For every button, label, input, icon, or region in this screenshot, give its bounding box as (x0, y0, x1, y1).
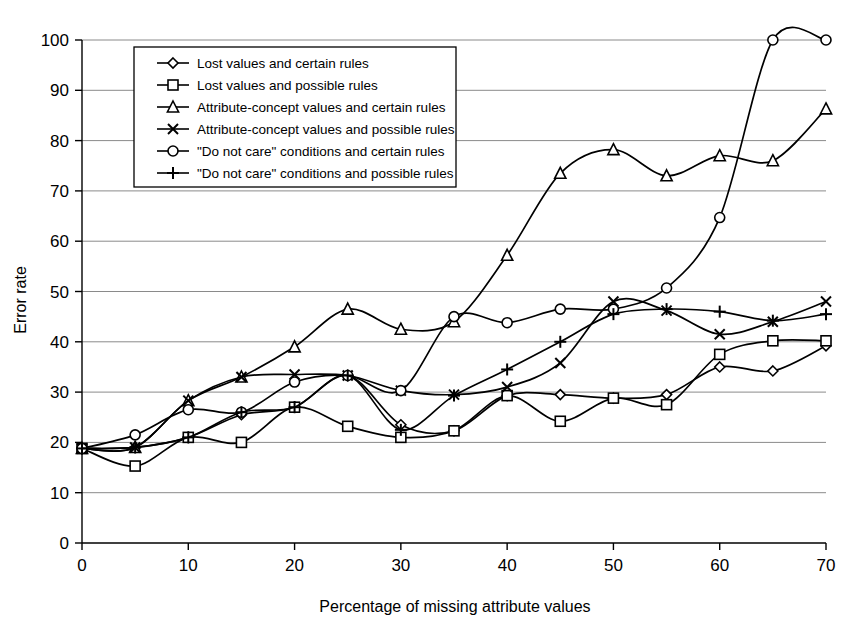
chart-figure: 0102030405060708090100 010203040506070 L… (0, 0, 845, 631)
marker-circle-4-1 (130, 430, 140, 440)
x-tick-label-0: 0 (77, 556, 86, 575)
marker-diamond-0-12 (715, 362, 725, 372)
marker-circle-4-12 (715, 213, 725, 223)
legend-item-5[interactable]: "Do not care" conditions and possible ru… (157, 166, 454, 181)
marker-square-1-1 (130, 461, 140, 471)
marker-plus-5-9 (554, 336, 566, 348)
marker-circle-4-11 (662, 283, 672, 293)
marker-circle-4-13 (768, 35, 778, 45)
marker-circle-4-2 (183, 405, 193, 415)
marker-circle-legend-4 (168, 146, 178, 156)
x-axis-title: Percentage of missing attribute values (319, 598, 590, 615)
legend-item-2[interactable]: Attribute-concept values and certain rul… (157, 100, 446, 115)
x-tick-label-70: 70 (817, 556, 836, 575)
y-tick-labels: 0102030405060708090100 (41, 31, 69, 553)
marker-cross-3-9 (555, 358, 565, 368)
y-tick-label-50: 50 (50, 283, 69, 302)
marker-circle-4-6 (396, 386, 406, 396)
marker-square-1-11 (662, 400, 672, 410)
marker-square-1-5 (343, 421, 353, 431)
marker-square-1-9 (555, 416, 565, 426)
legend-label-4: "Do not care" conditions and certain rul… (197, 144, 445, 159)
marker-diamond-0-13 (768, 366, 778, 376)
marker-square-1-8 (502, 391, 512, 401)
marker-diamond-0-11 (662, 390, 672, 400)
marker-cross-3-14 (821, 297, 831, 307)
marker-circle-4-4 (290, 377, 300, 387)
marker-circle-4-14 (821, 35, 831, 45)
marker-triangle-2-4 (289, 341, 300, 352)
x-tick-label-30: 30 (391, 556, 410, 575)
marker-plus-5-14 (820, 308, 832, 320)
legend-label-5: "Do not care" conditions and possible ru… (197, 166, 454, 181)
y-tick-label-30: 30 (50, 383, 69, 402)
legend-item-4[interactable]: "Do not care" conditions and certain rul… (157, 144, 445, 159)
y-tick-label-0: 0 (60, 534, 69, 553)
chart-legend: Lost values and certain rulesLost values… (134, 47, 456, 187)
legend-label-0: Lost values and certain rules (197, 56, 369, 71)
marker-plus-5-8 (501, 363, 513, 375)
marker-square-1-13 (768, 336, 778, 346)
x-tick-label-40: 40 (498, 556, 517, 575)
x-tick-label-50: 50 (604, 556, 623, 575)
y-tick-label-100: 100 (41, 31, 69, 50)
error-rate-line-chart: 0102030405060708090100 010203040506070 L… (0, 0, 845, 631)
marker-circle-4-8 (502, 318, 512, 328)
y-axis-title: Error rate (12, 266, 29, 334)
y-tick-label-40: 40 (50, 333, 69, 352)
marker-square-1-12 (715, 349, 725, 359)
y-tick-label-10: 10 (50, 484, 69, 503)
y-tick-label-20: 20 (50, 433, 69, 452)
marker-square-1-14 (821, 336, 831, 346)
marker-square-1-3 (236, 437, 246, 447)
legend-item-3[interactable]: Attribute-concept values and possible ru… (157, 122, 455, 137)
y-tick-label-60: 60 (50, 232, 69, 251)
legend-label-2: Attribute-concept values and certain rul… (197, 100, 446, 115)
x-tick-label-20: 20 (285, 556, 304, 575)
x-tick-label-60: 60 (710, 556, 729, 575)
legend-label-1: Lost values and possible rules (197, 78, 378, 93)
x-tick-labels: 010203040506070 (77, 556, 835, 575)
marker-square-1-7 (449, 426, 459, 436)
marker-circle-4-9 (555, 304, 565, 314)
x-tick-label-10: 10 (179, 556, 198, 575)
marker-diamond-0-9 (555, 390, 565, 400)
legend-label-3: Attribute-concept values and possible ru… (197, 122, 455, 137)
y-tick-label-90: 90 (50, 81, 69, 100)
marker-square-legend-1 (168, 80, 178, 90)
marker-circle-4-7 (449, 312, 459, 322)
marker-square-1-10 (608, 393, 618, 403)
y-tick-label-80: 80 (50, 132, 69, 151)
marker-triangle-2-14 (820, 103, 831, 114)
marker-plus-5-11 (661, 303, 673, 315)
y-tick-label-70: 70 (50, 182, 69, 201)
marker-triangle-2-13 (767, 155, 778, 166)
marker-plus-5-12 (714, 306, 726, 318)
